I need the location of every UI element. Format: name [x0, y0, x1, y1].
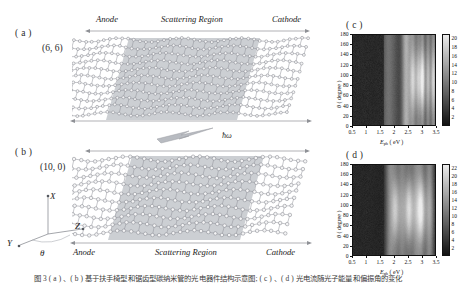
axis-label-x: X — [50, 191, 56, 201]
ytick-label: 60 — [343, 92, 349, 98]
ytick-label: 180 — [340, 31, 348, 37]
ytick-label: 160 — [340, 41, 348, 47]
nanotube-armchair-svg — [72, 34, 312, 124]
axis-label-theta: θ — [40, 248, 44, 258]
ytick-mark — [350, 236, 352, 237]
ytick-label: 140 — [340, 51, 348, 57]
ytick-label: 100 — [340, 202, 348, 208]
xtick-label: 2 — [393, 259, 396, 265]
colorbar-tick-label: 2 — [452, 245, 455, 251]
ytick-label: 60 — [343, 222, 349, 228]
heatmap-d[interactable] — [352, 164, 436, 256]
xaxis-title-c-unit: ( eV ) — [389, 139, 403, 145]
ytick-mark — [350, 34, 352, 35]
xtick-label: 1 — [365, 129, 368, 135]
ytick-label: 0 — [346, 253, 349, 259]
colorbar-tick-label: 8 — [452, 221, 455, 227]
xtick-label: 0.5 — [349, 129, 356, 135]
region-label-scattering-top: Scattering Region — [161, 14, 223, 24]
ytick-mark — [350, 54, 352, 55]
colorbar-tick-label: 10 — [452, 213, 457, 219]
ytick-label: 40 — [343, 103, 349, 109]
heatmap-c[interactable] — [352, 34, 436, 126]
colorbar-tick-label: 18 — [452, 44, 457, 50]
ytick-label: 80 — [343, 82, 349, 88]
colorbar-tick-label: 6 — [452, 229, 455, 235]
colorbar-tick-label: 4 — [452, 105, 455, 111]
ytick-mark — [350, 184, 352, 185]
chirality-label-a: (6, 6) — [42, 43, 63, 53]
figure-caption: 图 3 ( a ) 、( b ) 基于扶手椅型和锯齿型碳纳米管的光电器件结构示意… — [34, 272, 402, 283]
colorbar-tick-label: 16 — [452, 53, 457, 59]
ytick-label: 140 — [340, 181, 348, 187]
axis-label-y: Y — [7, 238, 12, 248]
ytick-mark — [350, 256, 352, 257]
ytick-mark — [350, 85, 352, 86]
ytick-label: 100 — [340, 72, 348, 78]
ytick-mark — [350, 205, 352, 206]
xtick-label: 3.5 — [433, 129, 440, 135]
colorbar-tick-label: 8 — [452, 88, 455, 94]
colorbar-tick-label: 10 — [452, 79, 457, 85]
panel-d: ( d ) 0.511.522.533.50204060801001201401… — [330, 150, 474, 276]
xtick-label: 1.5 — [377, 129, 384, 135]
colorbar-tick-label: 20 — [452, 173, 457, 179]
colorbar-tick-label: 6 — [452, 97, 455, 103]
colorbar-tick-label: 16 — [452, 189, 457, 195]
nanotube-device-a — [72, 34, 312, 124]
span-arrow-b-bottom — [70, 240, 312, 246]
xtick-label: 2 — [393, 129, 396, 135]
ytick-label: 40 — [343, 233, 349, 239]
region-label-scattering-bottom: Scattering Region — [155, 247, 217, 257]
ytick-label: 0 — [346, 123, 349, 129]
xtick-label: 3.5 — [433, 259, 440, 265]
yaxis-title-c-sym: θ — [336, 105, 342, 108]
ytick-mark — [350, 195, 352, 196]
colorbar-tick-label: 22 — [452, 165, 457, 171]
yaxis-title-d-unit: ( degree ) — [336, 211, 342, 234]
ytick-mark — [350, 44, 352, 45]
colorbar-tick-label: 2 — [452, 114, 455, 120]
xtick-label: 0.5 — [349, 259, 356, 265]
ytick-mark — [350, 164, 352, 165]
nanotube-zigzag-svg — [72, 152, 312, 244]
region-label-anode-top: Anode — [96, 14, 118, 24]
yaxis-title-c-unit: ( degree ) — [336, 81, 342, 104]
xtick-label: 3 — [421, 129, 424, 135]
xtick-label: 1 — [365, 259, 368, 265]
colorbar-tick-label: 12 — [452, 205, 457, 211]
ytick-mark — [350, 246, 352, 247]
panel-letter-b: ( b ) — [15, 147, 32, 157]
colorbar-d — [442, 164, 450, 256]
xaxis-title-c-sub: ph — [384, 141, 388, 146]
colorbar-tick-label: 12 — [452, 70, 457, 76]
panel-c: ( c ) 0.511.522.533.50204060801001201401… — [330, 20, 474, 146]
photon-bolt-icon — [155, 126, 217, 146]
colorbar-tick-label: 14 — [452, 62, 457, 68]
panel-letter-d: ( d ) — [346, 150, 363, 160]
xtick-label: 2.5 — [405, 129, 412, 135]
panel-letter-c: ( c ) — [346, 20, 363, 30]
ytick-label: 20 — [343, 243, 349, 249]
ytick-label: 20 — [343, 113, 349, 119]
ytick-mark — [350, 95, 352, 96]
ytick-mark — [350, 75, 352, 76]
ytick-mark — [350, 126, 352, 127]
ytick-mark — [350, 174, 352, 175]
ytick-label: 80 — [343, 212, 349, 218]
yaxis-title-d-sym: θ — [336, 235, 342, 238]
ytick-mark — [350, 116, 352, 117]
ytick-mark — [350, 106, 352, 107]
photon-energy-label: ħω — [222, 131, 232, 140]
yaxis-title-c: θ ( degree ) — [336, 81, 342, 108]
colorbar-tick-label: 14 — [452, 197, 457, 203]
region-label-cathode-top: Cathode — [272, 14, 301, 24]
colorbar-tick-label: 20 — [452, 35, 457, 41]
ytick-mark — [350, 215, 352, 216]
nanotube-device-b — [72, 152, 312, 244]
colorbar-tick-label: 18 — [452, 181, 457, 187]
xaxis-title-c: Eph ( eV ) — [380, 139, 403, 146]
xtick-label: 2.5 — [405, 259, 412, 265]
ytick-mark — [350, 225, 352, 226]
